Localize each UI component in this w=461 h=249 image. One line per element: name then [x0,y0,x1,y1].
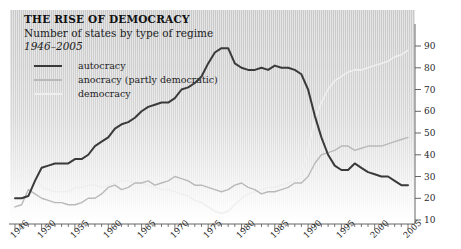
y-axis-label: 60 [424,106,446,116]
y-axis-label: 90 [424,41,446,51]
y-axis-label: 50 [424,128,446,138]
axis-layer [9,24,421,230]
y-axis-label: 30 [424,172,446,182]
y-axis-label: 20 [424,193,446,203]
series-line-anocracy [15,137,408,207]
y-axis-label: 70 [424,85,446,95]
chart-figure: THE RISE OF DEMOCRACY Number of states b… [0,0,461,249]
series-layer [15,48,408,213]
series-line-autocracy [15,48,408,198]
plot-canvas [0,0,461,249]
y-axis-label: 10 [424,215,446,225]
y-axis-label: 40 [424,150,446,160]
y-axis-label: 80 [424,63,446,73]
